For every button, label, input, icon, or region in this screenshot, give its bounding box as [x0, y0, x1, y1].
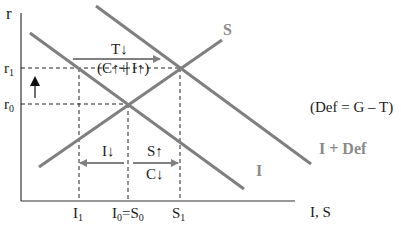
tax-cut-label: T↓ [111, 42, 128, 57]
investment-curve [30, 33, 244, 189]
r0-sub: 0 [9, 103, 14, 114]
S1-sub: 1 [180, 212, 185, 223]
x-tick-S1: S1 [172, 206, 185, 223]
y-tick-r0: r0 [4, 97, 14, 114]
S0-main: =S [122, 205, 139, 221]
I1-sub: 1 [78, 212, 83, 223]
investment-down-label: I↓ [102, 144, 115, 159]
investment-curve-label: I [256, 163, 262, 179]
saving-up-label: S↑ [147, 144, 163, 159]
deficit-definition: (Def = G – T) [310, 100, 393, 115]
r1-sub: 1 [9, 67, 14, 78]
consumption-investment-up-label: (C↑+ I↑) [97, 61, 149, 76]
S0-sub: 0 [139, 212, 144, 223]
x-tick-I1: I1 [73, 206, 83, 223]
saving-curve-label: S [223, 22, 232, 38]
x-tick-I0-S0: I0=S0 [112, 206, 144, 223]
y-tick-r1: r1 [4, 61, 14, 78]
y-axis-label: r [6, 5, 12, 22]
x-axis-label: I, S [310, 205, 331, 220]
consumption-down-label: C↓ [146, 167, 164, 182]
investment-plus-deficit-label: I + Def [319, 141, 366, 157]
